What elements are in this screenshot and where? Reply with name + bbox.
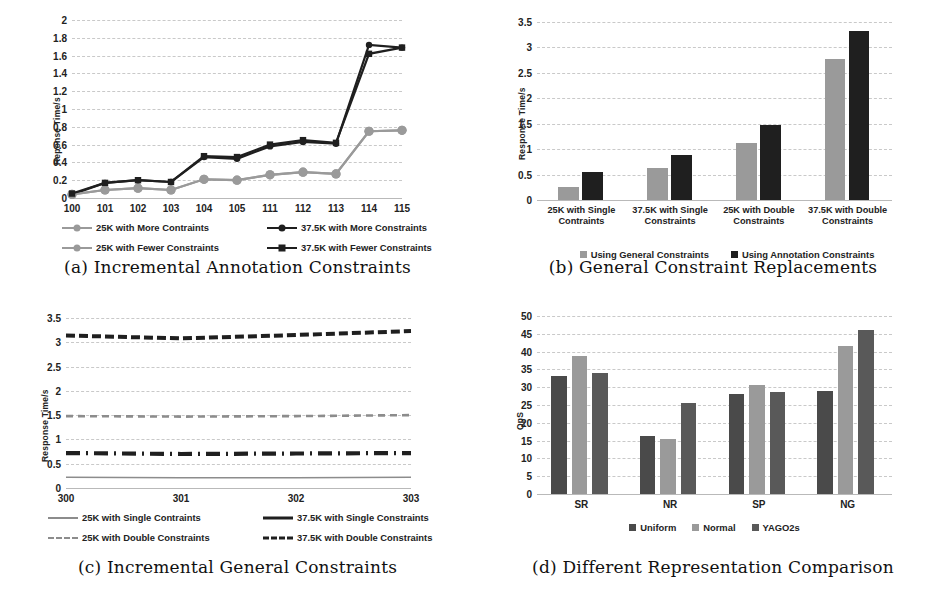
chart-b: Response Time/s 00.511.522.533.525K with… [475, 0, 951, 255]
y-axis-tick-label: 2.5 [47, 361, 61, 372]
y-axis-tick-label: 5 [526, 471, 532, 482]
y-axis-tick-label: 1 [526, 144, 532, 155]
y-axis-tick-label: 20 [521, 417, 532, 428]
legend-label: YAGO2s [763, 522, 800, 533]
data-point-marker [331, 169, 340, 178]
legend-item[interactable]: YAGO2s [752, 522, 800, 533]
series-line [66, 415, 411, 416]
x-axis-tick-label: NR [663, 499, 677, 510]
chart-c: Response Time/s 00.511.522.533.530030130… [0, 300, 475, 555]
legend-item[interactable]: Uniform [629, 522, 676, 533]
legend-label: Using Annotation Constraints [742, 249, 874, 260]
gridline [537, 494, 892, 495]
data-point-marker [166, 185, 175, 194]
legend-item[interactable]: 25K with Single Contraints [48, 512, 263, 523]
data-point-marker [265, 170, 274, 179]
y-axis-tick-label: 3 [55, 337, 61, 348]
y-axis-tick-label: 0.8 [53, 121, 67, 132]
legend-square-swatch-icon [752, 524, 759, 531]
chart-a-legend: 25K with More Contraints37.5K with More … [62, 222, 462, 253]
bar [558, 187, 579, 200]
legend-item[interactable]: 37.5K with Fewer Constraints [267, 242, 462, 253]
bar [749, 385, 765, 494]
bar [838, 346, 854, 494]
y-axis-tick-label: 0 [526, 195, 532, 206]
x-axis-tick-label: 303 [403, 493, 420, 504]
y-axis-tick-label: 2 [61, 15, 67, 26]
legend-marker-circle-icon [74, 224, 81, 231]
y-axis-tick-label: 2 [526, 93, 532, 104]
x-axis-tick-label: 25K with SingleContraints [533, 205, 629, 227]
panel-b: Response Time/s 00.511.522.533.525K with… [475, 0, 951, 300]
legend-label: 25K with More Contraints [96, 222, 209, 233]
gridline [537, 316, 892, 317]
x-axis-tick-label: 113 [328, 203, 344, 214]
gridline [537, 200, 892, 201]
series-line [72, 45, 402, 195]
legend-label: 25K with Fewer Constraints [96, 242, 219, 253]
y-axis-tick-label: 1 [61, 104, 67, 115]
bar [660, 439, 676, 494]
chart-c-series-svg [66, 318, 411, 488]
legend-item[interactable]: 25K with More Contraints [62, 222, 267, 233]
legend-item[interactable]: Using Annotation Constraints [731, 249, 874, 260]
y-axis-tick-label: 0.6 [53, 139, 67, 150]
legend-marker-circle-icon [74, 244, 81, 251]
y-axis-tick-label: 0.2 [53, 175, 67, 186]
legend-item[interactable]: Using General Constraints [580, 249, 709, 260]
x-axis-tick-label: NG [840, 499, 855, 510]
y-axis-tick-label: 0.5 [518, 169, 532, 180]
chart-b-caption: (b) General Constraint Replacements [475, 257, 951, 277]
x-axis-tick-label: SP [752, 499, 765, 510]
chart-a-plot-area: 00.20.40.60.811.21.41.61.821001011021031… [72, 20, 402, 198]
chart-a-series-svg [72, 20, 402, 198]
legend-line [48, 517, 78, 519]
gridline [66, 488, 411, 489]
data-point-marker [298, 168, 307, 177]
chart-b-legend: Using General ConstraintsUsing Annotatio… [537, 249, 917, 260]
figure-grid: Reponse Time/s 00.20.40.60.811.21.41.61.… [0, 0, 951, 605]
legend-item[interactable]: 37.5K with Double Constraints [263, 532, 473, 543]
legend-item[interactable]: Normal [692, 522, 735, 533]
bar [671, 155, 692, 200]
data-point-marker [135, 177, 141, 183]
data-point-marker [364, 127, 373, 136]
chart-d-legend: UniformNormalYAGO2s [537, 522, 892, 533]
bar [760, 125, 781, 200]
y-axis-tick-label: 30 [521, 382, 532, 393]
y-axis-tick-label: 50 [521, 311, 532, 322]
legend-item[interactable]: 37.5K with More Constraints [267, 222, 462, 233]
x-axis-tick-label: 111 [262, 203, 278, 214]
bar [551, 376, 567, 494]
bar [592, 373, 608, 494]
series-line [72, 48, 402, 194]
gridline [72, 198, 402, 199]
x-axis-tick-label: 37.5K with DoubleConstraints [800, 205, 896, 227]
data-point-marker [366, 51, 372, 57]
y-axis-tick-label: 3.5 [518, 17, 532, 28]
y-axis-tick-label: 45 [521, 328, 532, 339]
data-point-marker [267, 141, 273, 147]
legend-label: 25K with Single Contraints [82, 512, 201, 523]
legend-label: 37.5K with Single Constraints [297, 512, 429, 523]
data-point-marker [300, 137, 306, 143]
y-axis-tick-label: 0 [526, 489, 532, 500]
legend-item[interactable]: 25K with Double Constraints [48, 532, 263, 543]
bar [729, 394, 745, 494]
y-axis-tick-label: 10 [521, 453, 532, 464]
legend-square-swatch-icon [731, 251, 738, 258]
data-point-marker [397, 126, 406, 135]
data-point-marker [168, 179, 174, 185]
legend-item[interactable]: 37.5K with Single Constraints [263, 512, 473, 523]
series-line [66, 453, 411, 454]
legend-item[interactable]: 25K with Fewer Constraints [62, 242, 267, 253]
bar [572, 356, 588, 494]
bar [770, 392, 786, 494]
data-point-marker [133, 184, 142, 193]
panel-a: Reponse Time/s 00.20.40.60.811.21.41.61.… [0, 0, 475, 300]
panel-c: Response Time/s 00.511.522.533.530030130… [0, 300, 475, 605]
chart-d-plot-area: 05101520253035404550SRNRSPNG [537, 316, 892, 494]
series-line [72, 130, 402, 194]
series-line [66, 331, 411, 338]
y-axis-tick-label: 1.4 [53, 68, 67, 79]
